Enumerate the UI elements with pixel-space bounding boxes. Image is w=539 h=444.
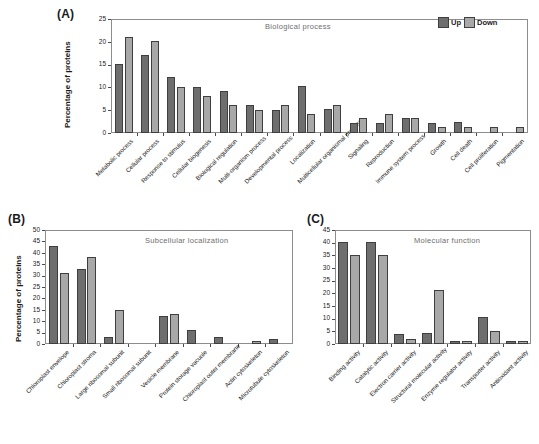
y-tick-label: 25	[85, 16, 106, 23]
bar-down	[406, 339, 416, 344]
bar-up	[376, 123, 384, 133]
bar-down	[125, 37, 133, 133]
x-tick-mark	[183, 344, 184, 347]
x-axis-category-label: Chloroplast stroma	[44, 349, 98, 403]
panel-a-legend: Up Down	[438, 17, 497, 28]
panel-a-y-axis-label: Percentage of proteins	[63, 41, 72, 128]
bar-down	[385, 114, 393, 133]
y-tick-mark	[108, 87, 111, 88]
y-tick-label: 10	[85, 84, 106, 91]
x-axis-category-label: Structural molecular activity	[390, 349, 445, 404]
panel-c-title: Molecular function	[414, 236, 480, 245]
y-tick-mark	[108, 42, 111, 43]
bar-up	[506, 341, 516, 344]
x-tick-mark	[447, 344, 448, 347]
bar-down	[307, 114, 315, 133]
x-axis-category-label: Protein storage vacuole	[154, 349, 208, 403]
y-tick-label: 35	[309, 252, 330, 259]
bar-down	[281, 105, 289, 133]
x-tick-mark	[475, 344, 476, 347]
y-tick-label: 25	[309, 277, 330, 284]
bar-down	[170, 314, 179, 344]
x-tick-mark	[163, 133, 164, 136]
x-tick-mark	[267, 133, 268, 136]
y-tick-label: 20	[19, 295, 40, 302]
x-tick-mark	[210, 344, 211, 347]
bar-down	[252, 341, 261, 344]
y-tick-mark	[42, 287, 45, 288]
y-tick-mark	[108, 19, 111, 20]
bar-up	[115, 64, 123, 133]
x-axis-category-label: Vesicle membrane	[127, 349, 181, 403]
y-tick-mark	[332, 268, 335, 269]
y-tick-label: 20	[309, 290, 330, 297]
y-tick-label: 20	[85, 39, 106, 46]
bar-up	[428, 123, 436, 133]
x-tick-mark	[137, 133, 138, 136]
y-tick-mark	[332, 344, 335, 345]
x-tick-mark	[128, 344, 129, 347]
y-tick-mark	[108, 110, 111, 111]
x-axis-category-label: Microtubule cytoskeleton	[237, 349, 291, 403]
bar-up	[187, 330, 196, 344]
x-axis-category-label: Actin cytoskeleton	[209, 349, 263, 403]
x-tick-mark	[265, 344, 266, 347]
y-tick-label: 10	[19, 318, 40, 325]
panel-b-title: Subcellular localization	[145, 236, 229, 245]
y-tick-label: 50	[19, 227, 40, 234]
x-tick-mark	[73, 344, 74, 347]
bar-up	[298, 86, 306, 133]
y-tick-mark	[42, 344, 45, 345]
bar-up	[214, 337, 223, 344]
legend-label-up: Up	[451, 18, 461, 27]
bar-down	[229, 105, 237, 133]
y-tick-label: 15	[309, 303, 330, 310]
bar-up	[478, 317, 488, 344]
x-tick-mark	[320, 133, 321, 136]
x-tick-mark	[419, 344, 420, 347]
x-axis-category-label: Catalytic activity	[334, 349, 389, 404]
bar-down	[434, 290, 444, 344]
y-tick-mark	[108, 65, 111, 66]
panel-a-title: Biological process	[265, 22, 331, 31]
x-tick-mark	[363, 344, 364, 347]
panel-b-tag: (B)	[8, 212, 25, 226]
y-tick-mark	[42, 298, 45, 299]
bar-down	[438, 127, 446, 133]
bar-up	[324, 109, 332, 133]
y-tick-mark	[332, 306, 335, 307]
bar-down	[350, 255, 360, 344]
bar-down	[359, 118, 367, 133]
y-tick-label: 0	[19, 341, 40, 348]
y-tick-label: 35	[19, 261, 40, 268]
bar-down	[518, 341, 528, 344]
x-tick-mark	[189, 133, 190, 136]
y-tick-mark	[332, 255, 335, 256]
bar-up	[272, 110, 280, 133]
y-tick-label: 40	[19, 250, 40, 257]
legend-item-up: Up	[438, 17, 461, 28]
x-tick-mark	[503, 344, 504, 347]
bar-down	[464, 127, 472, 133]
y-tick-label: 15	[85, 61, 106, 68]
bar-down	[177, 87, 185, 133]
bar-up	[366, 242, 376, 344]
y-tick-label: 10	[309, 315, 330, 322]
y-tick-mark	[42, 241, 45, 242]
bar-down	[411, 118, 419, 133]
x-tick-mark	[476, 133, 477, 136]
bar-down	[60, 273, 69, 344]
bar-down	[333, 105, 341, 133]
y-tick-label: 15	[19, 307, 40, 314]
bar-down	[516, 127, 524, 133]
bar-up	[77, 269, 86, 344]
bar-up	[402, 118, 410, 133]
bar-down	[255, 110, 263, 133]
bar-down	[490, 127, 498, 133]
y-tick-label: 5	[85, 107, 106, 114]
bar-up	[246, 105, 254, 133]
x-tick-mark	[398, 133, 399, 136]
bar-up	[167, 77, 175, 133]
x-axis-category-label: Binding activity	[306, 349, 361, 404]
x-axis-category-label: Small ribosomal subunit	[99, 349, 153, 403]
